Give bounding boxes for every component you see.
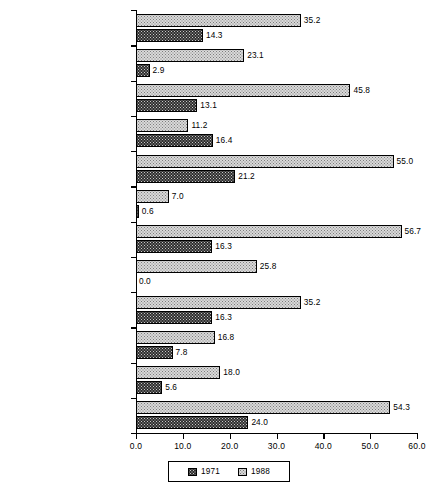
bar-1971 bbox=[136, 99, 197, 112]
bar-1988 bbox=[136, 225, 402, 238]
x-axis-tick bbox=[277, 433, 278, 439]
chart-category-row: Education55.021.2 bbox=[136, 151, 417, 186]
legend-label-1971: 1971 bbox=[201, 467, 220, 476]
bar-value-label-1988: 35.2 bbox=[304, 15, 321, 25]
bar-1988 bbox=[136, 296, 301, 309]
plot-area: Doctor's Degrees (Total)35.214.3Business… bbox=[136, 10, 417, 433]
bar-1988 bbox=[136, 331, 215, 344]
bar-1988 bbox=[136, 155, 394, 168]
chart-category-row: Life Sciences35.216.3 bbox=[136, 292, 417, 327]
bar-value-label-1971: 2.9 bbox=[153, 65, 165, 75]
bar-1971 bbox=[136, 170, 235, 183]
bar-1971 bbox=[136, 64, 150, 77]
bar-1988 bbox=[136, 190, 169, 203]
y-axis-tick bbox=[131, 116, 137, 117]
bar-1988 bbox=[136, 14, 301, 27]
bar-value-label-1971: 0.6 bbox=[142, 206, 154, 216]
chart-category-row: Computer and Information Sciences11.216.… bbox=[136, 116, 417, 151]
x-axis-tick-label: 0.0 bbox=[130, 441, 142, 451]
y-axis-tick bbox=[131, 292, 137, 293]
bar-1971 bbox=[136, 240, 212, 253]
bar-1988 bbox=[136, 401, 390, 414]
y-axis-tick bbox=[131, 398, 137, 399]
bar-value-label-1988: 54.3 bbox=[393, 402, 410, 412]
chart-category-row: Communications45.813.1 bbox=[136, 81, 417, 116]
bar-1988 bbox=[136, 119, 188, 132]
bar-1971 bbox=[136, 134, 213, 147]
bar-value-label-1988: 23.1 bbox=[247, 50, 264, 60]
chart-legend: 1971 1988 bbox=[168, 461, 290, 482]
bar-value-label-1971: 13.1 bbox=[200, 100, 217, 110]
bar-value-label-1971: 5.6 bbox=[165, 382, 177, 392]
bar-value-label-1971: 14.3 bbox=[206, 30, 223, 40]
x-axis-tick bbox=[323, 433, 324, 439]
legend-label-1988: 1988 bbox=[251, 467, 270, 476]
bar-value-label-1988: 18.0 bbox=[223, 367, 240, 377]
x-axis-tick-label: 10.0 bbox=[174, 441, 191, 451]
x-axis-tick bbox=[136, 433, 137, 439]
bar-value-label-1971: 0.0 bbox=[139, 276, 151, 286]
x-axis-tick bbox=[370, 433, 371, 439]
bar-value-label-1988: 45.8 bbox=[353, 85, 370, 95]
x-axis-tick bbox=[183, 433, 184, 439]
x-axis-tick bbox=[417, 433, 418, 439]
bar-1988 bbox=[136, 260, 257, 273]
x-axis-tick-label: 40.0 bbox=[315, 441, 332, 451]
x-axis-tick-label: 30.0 bbox=[268, 441, 285, 451]
bar-1971 bbox=[136, 381, 162, 394]
legend-swatch-1971-icon bbox=[188, 468, 197, 476]
bar-value-label-1971: 24.0 bbox=[251, 417, 268, 427]
chart-category-row: Physical Sciences18.05.6 bbox=[136, 363, 417, 398]
legend-item-1971: 1971 bbox=[188, 467, 220, 476]
bar-value-label-1988: 55.0 bbox=[397, 156, 414, 166]
bar-value-label-1971: 16.3 bbox=[215, 241, 232, 251]
legend-swatch-1988-icon bbox=[238, 468, 247, 476]
y-axis-tick bbox=[131, 363, 137, 364]
x-axis-tick-label: 50.0 bbox=[361, 441, 378, 451]
bar-value-label-1988: 56.7 bbox=[405, 226, 422, 236]
y-axis-tick bbox=[131, 81, 137, 82]
bar-1988 bbox=[136, 366, 220, 379]
bar-1988 bbox=[136, 49, 244, 62]
x-axis-tick bbox=[230, 433, 231, 439]
figure-caption bbox=[0, 486, 446, 494]
chart-category-row: Mathematics16.87.8 bbox=[136, 327, 417, 362]
y-axis-tick bbox=[131, 45, 137, 46]
y-axis-tick bbox=[131, 10, 137, 11]
bar-value-label-1971: 21.2 bbox=[238, 171, 255, 181]
bar-chart: Doctor's Degrees (Total)35.214.3Business… bbox=[0, 0, 446, 494]
bar-value-label-1988: 16.8 bbox=[218, 332, 235, 342]
y-axis-tick bbox=[131, 327, 137, 328]
y-axis-tick bbox=[131, 186, 137, 187]
bar-value-label-1988: 11.2 bbox=[191, 120, 207, 130]
bar-value-label-1971: 7.8 bbox=[176, 347, 188, 357]
y-axis-tick bbox=[131, 257, 137, 258]
bar-1971 bbox=[136, 205, 139, 218]
chart-category-row: Law25.80.0 bbox=[136, 257, 417, 292]
bar-1988 bbox=[136, 84, 350, 97]
bar-1971 bbox=[136, 416, 248, 429]
bar-value-label-1971: 16.4 bbox=[216, 135, 233, 145]
bar-value-label-1988: 7.0 bbox=[172, 191, 184, 201]
y-axis-tick bbox=[131, 151, 137, 152]
chart-category-row: Engineering7.00.6 bbox=[136, 186, 417, 221]
legend-item-1988: 1988 bbox=[238, 467, 270, 476]
y-axis-tick bbox=[131, 222, 137, 223]
bar-1971 bbox=[136, 311, 212, 324]
bar-1971 bbox=[136, 29, 203, 42]
chart-category-row: Health Sciences56.716.3 bbox=[136, 222, 417, 257]
chart-category-row: Business and Management23.12.9 bbox=[136, 45, 417, 80]
x-axis-tick-label: 60.0 bbox=[408, 441, 425, 451]
x-axis-tick-label: 20.0 bbox=[221, 441, 238, 451]
bar-1971 bbox=[136, 346, 173, 359]
bar-value-label-1988: 35.2 bbox=[304, 297, 321, 307]
chart-category-row: Psychology54.324.0 bbox=[136, 398, 417, 433]
bar-value-label-1988: 25.8 bbox=[260, 261, 277, 271]
chart-category-row: Doctor's Degrees (Total)35.214.3 bbox=[136, 10, 417, 45]
bar-value-label-1971: 16.3 bbox=[215, 312, 232, 322]
